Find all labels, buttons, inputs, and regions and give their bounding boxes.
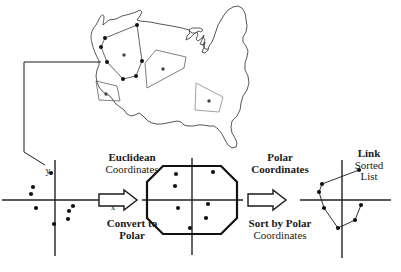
data-point xyxy=(67,209,71,213)
label-link-line3: List xyxy=(340,171,398,183)
label-euclidean-line1: Euclidean xyxy=(86,152,178,164)
data-point xyxy=(29,192,33,196)
map-cluster-centroid xyxy=(161,67,164,70)
map-point xyxy=(134,74,138,78)
map-point xyxy=(103,36,107,40)
sort-by-polar-arrow xyxy=(248,190,286,210)
data-point xyxy=(34,206,38,210)
data-point xyxy=(176,206,180,210)
map-cluster-northwest xyxy=(99,23,144,81)
data-point xyxy=(204,216,208,220)
label-convert-line2: Polar xyxy=(76,230,188,242)
data-point xyxy=(66,217,70,221)
label-sort-line1: Sort by Polar xyxy=(216,218,344,230)
data-point xyxy=(31,185,35,189)
map-point xyxy=(99,45,103,49)
map-cluster-centroid xyxy=(207,99,210,102)
label-sort-line2: Coordinates xyxy=(216,230,344,242)
label-polar-line1: Polar xyxy=(228,152,332,164)
label-sort-by-polar: Sort by Polar Coordinates xyxy=(216,218,344,241)
label-euclidean-coordinates: Euclidean Coordinates xyxy=(86,152,178,175)
map-cluster-southwest xyxy=(96,81,120,101)
data-point xyxy=(320,182,324,186)
data-point xyxy=(71,204,75,208)
label-convert-line1: Convert to xyxy=(76,218,188,230)
data-point xyxy=(322,206,326,210)
data-point xyxy=(359,203,363,207)
label-link-line1: Link xyxy=(340,148,398,160)
label-polar-coordinates: Polar Coordinates xyxy=(228,152,332,175)
data-point xyxy=(188,226,192,230)
map-cluster-southeast xyxy=(195,83,223,112)
label-euclidean-line2: Coordinates xyxy=(86,164,178,176)
x-axis-label: x xyxy=(107,203,119,212)
label-link-sorted-list: Link Sorted List xyxy=(340,148,398,183)
y-axis-label: y xyxy=(42,166,54,177)
map-cluster-centroid xyxy=(104,92,107,95)
data-point xyxy=(317,190,321,194)
us-map-outline xyxy=(91,6,249,148)
leader-line xyxy=(24,62,101,165)
map-point xyxy=(140,59,144,63)
map-point xyxy=(135,23,139,27)
data-point xyxy=(173,184,177,188)
data-point xyxy=(211,170,215,174)
data-point xyxy=(353,218,357,222)
map-cluster-centroid xyxy=(122,53,125,56)
map-point xyxy=(105,60,109,64)
map-point xyxy=(121,77,125,81)
data-point xyxy=(52,222,56,226)
label-polar-line2: Coordinates xyxy=(228,164,332,176)
map-cluster-central xyxy=(145,50,186,88)
data-point xyxy=(206,202,210,206)
label-convert-to-polar: Convert to Polar xyxy=(76,218,188,241)
